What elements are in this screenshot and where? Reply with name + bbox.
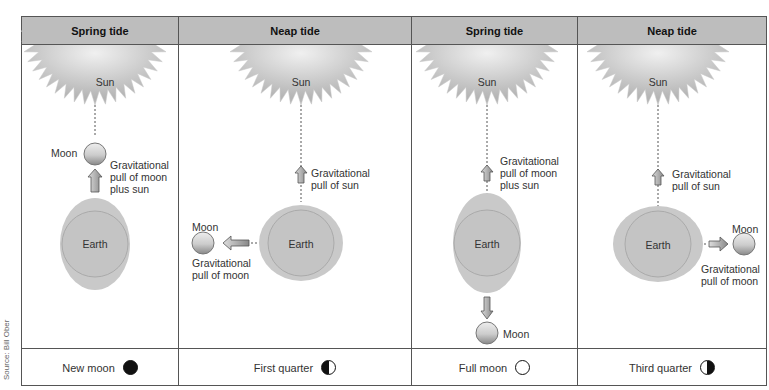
panel-spring-tide-full-moon: Spring tide Sun Gravitationalpull of moo…: [412, 17, 578, 385]
phase-row: New moon: [22, 348, 178, 386]
phase-label: New moon: [62, 362, 115, 374]
third-quarter-icon: [700, 360, 715, 375]
arrow-up-icon: [481, 165, 493, 181]
moon-label: Moon: [51, 147, 77, 159]
sun-label: Sun: [467, 76, 507, 88]
panel-neap-tide-third-quarter: Neap tide Sun Gravitationalpull of sun M…: [578, 17, 766, 385]
panel-neap-tide-first-quarter: Neap tide Sun Gravitationalpull of sun M…: [179, 17, 412, 385]
sun-pull-label: Gravitationalpull of sun: [672, 168, 731, 192]
phase-label: Third quarter: [629, 362, 692, 374]
new-moon-icon: [123, 360, 138, 375]
earth-label: Earth: [283, 238, 319, 250]
arrow-up-icon: [652, 169, 664, 185]
phase-row: Full moon: [412, 348, 577, 386]
phase-row: First quarter: [179, 348, 411, 386]
sun-label: Sun: [638, 76, 678, 88]
earth-label: Earth: [77, 238, 113, 250]
moon-icon: [476, 322, 498, 344]
arrow-up-icon: [88, 169, 102, 192]
panel-title: Neap tide: [179, 17, 411, 45]
arrow-down-icon: [481, 297, 493, 319]
moon-label: Moon: [732, 223, 758, 235]
full-moon-icon: [515, 360, 530, 375]
moon-pull-label: Gravitationalpull of moon: [701, 263, 760, 287]
earth-label: Earth: [640, 239, 676, 251]
tide-diagram: Spring tide Sun Moon Gravitationalpull o…: [21, 16, 767, 386]
pull-label: Gravitationalpull of moonplus sun: [500, 155, 559, 191]
moon-pull-label: Gravitationalpull of moon: [192, 257, 251, 281]
first-quarter-icon: [321, 360, 336, 375]
arrow-up-icon: [295, 166, 307, 183]
sun-pull-label: Gravitationalpull of sun: [311, 167, 370, 191]
moon-icon: [84, 143, 106, 165]
moon-label: Moon: [192, 221, 218, 233]
moon-icon: [733, 233, 755, 255]
panel-title: Neap tide: [578, 17, 766, 45]
phase-label: Full moon: [459, 362, 507, 374]
sun-label: Sun: [281, 76, 321, 88]
moon-label: Moon: [503, 328, 529, 340]
panel-title: Spring tide: [22, 17, 178, 45]
phase-label: First quarter: [254, 362, 313, 374]
panel-spring-tide-new-moon: Spring tide Sun Moon Gravitationalpull o…: [22, 17, 179, 385]
arrow-left-icon: [223, 236, 249, 250]
panel-title: Spring tide: [412, 17, 577, 45]
earth-label: Earth: [469, 238, 505, 250]
arrow-right-icon: [709, 237, 728, 251]
pull-label: Gravitationalpull of moonplus sun: [110, 159, 169, 195]
source-credit: Source: Bill Ober: [2, 320, 11, 380]
phase-row: Third quarter: [578, 348, 766, 386]
moon-icon: [192, 232, 214, 254]
sun-label: Sun: [85, 76, 125, 88]
